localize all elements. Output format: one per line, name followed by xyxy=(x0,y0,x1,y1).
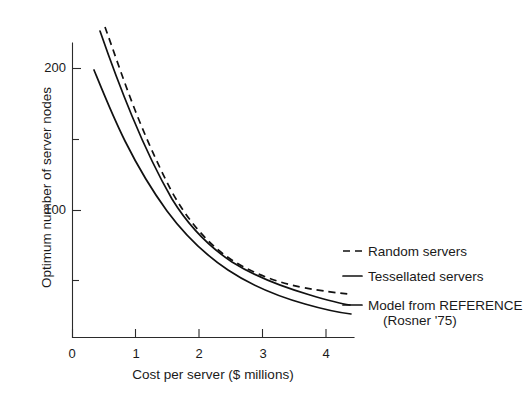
series-line-tessellated-servers xyxy=(100,31,350,305)
x-axis-title: Cost per server ($ millions) xyxy=(72,367,354,382)
x-tick-label-1: 1 xyxy=(122,347,150,360)
legend-label-tessellated-servers: Tessellated servers xyxy=(368,269,484,285)
legend-label-random-servers: Random servers xyxy=(368,244,467,260)
x-tick-label-3: 3 xyxy=(249,347,277,360)
series-line-random-servers xyxy=(105,27,348,294)
legend-label-model-reference: Model from REFERENCE xyxy=(368,298,523,314)
x-tick-label-2: 2 xyxy=(185,347,213,360)
x-tick-label-0: 0 xyxy=(58,347,86,360)
series-line-model-reference xyxy=(94,70,351,314)
x-tick-label-4: 4 xyxy=(312,347,340,360)
y-axis-title: Optimum number of server nodes xyxy=(39,58,54,318)
legend-label-model-reference-citation: (Rosner '75) xyxy=(383,313,457,329)
